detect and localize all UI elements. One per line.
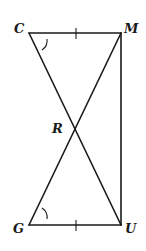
label-M: M <box>123 21 139 36</box>
angle-arc-G <box>42 208 47 219</box>
geometry-diagram: C M R G U <box>0 0 146 251</box>
label-U: U <box>125 221 137 236</box>
label-G: G <box>13 221 24 236</box>
label-C: C <box>14 21 25 36</box>
label-R: R <box>51 121 63 136</box>
angle-arc-C <box>42 39 47 50</box>
